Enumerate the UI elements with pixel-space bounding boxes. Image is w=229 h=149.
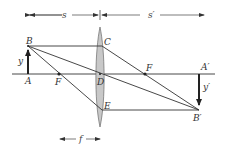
focal-point-left bbox=[57, 72, 60, 75]
label-f-right: F bbox=[145, 63, 153, 73]
label-s-prime: s′ bbox=[148, 10, 155, 20]
label-f: f bbox=[78, 134, 84, 144]
label-y: y bbox=[17, 56, 24, 66]
label-b-prime: B′ bbox=[192, 113, 202, 123]
point-d-dot bbox=[99, 73, 101, 75]
label-s: s bbox=[62, 10, 67, 20]
label-d: D bbox=[96, 77, 104, 87]
label-f-left: F bbox=[54, 77, 62, 87]
label-e: E bbox=[103, 101, 111, 111]
label-c: C bbox=[104, 37, 111, 47]
ray-diagram: s s′ f B A y C D E F F A′ y′ B′ bbox=[0, 0, 229, 149]
label-b: B bbox=[25, 36, 33, 46]
rays bbox=[28, 46, 199, 110]
label-y-prime: y′ bbox=[202, 82, 210, 92]
label-a-prime: A′ bbox=[200, 62, 210, 72]
ray-parallel-out bbox=[102, 46, 199, 110]
ray-central bbox=[28, 46, 199, 110]
ray-focal-in bbox=[28, 46, 102, 110]
label-a: A bbox=[24, 76, 32, 86]
